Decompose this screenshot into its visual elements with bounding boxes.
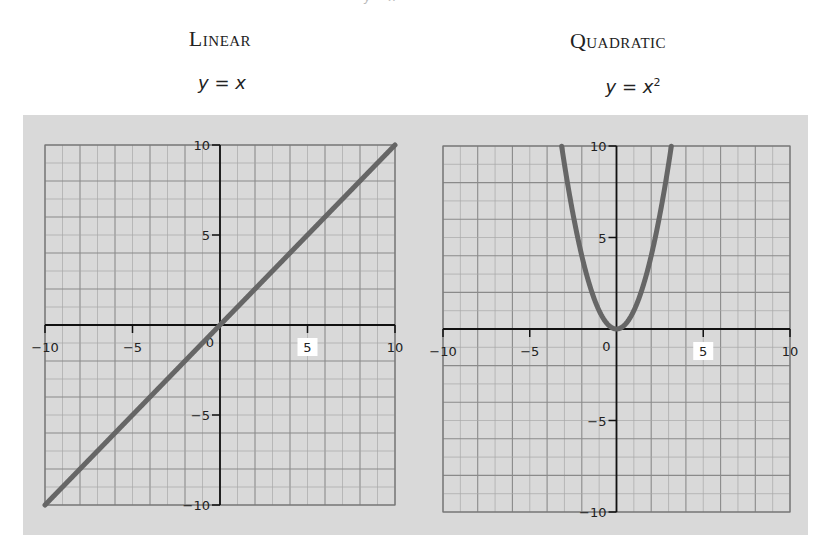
y-tick-label: 10 [590, 139, 607, 154]
x-tick-label: 5 [699, 344, 707, 359]
x-tick-label: 10 [782, 344, 799, 359]
y-tick-label: −5 [587, 414, 606, 429]
x-tick-label: −5 [520, 344, 539, 359]
x-tick-label: 0 [602, 339, 610, 354]
y-tick-label: 5 [598, 231, 606, 246]
quadratic-graph: −10−50510−10−5510 [0, 0, 832, 539]
y-tick-label: −10 [579, 505, 606, 520]
x-tick-label: −10 [429, 344, 456, 359]
